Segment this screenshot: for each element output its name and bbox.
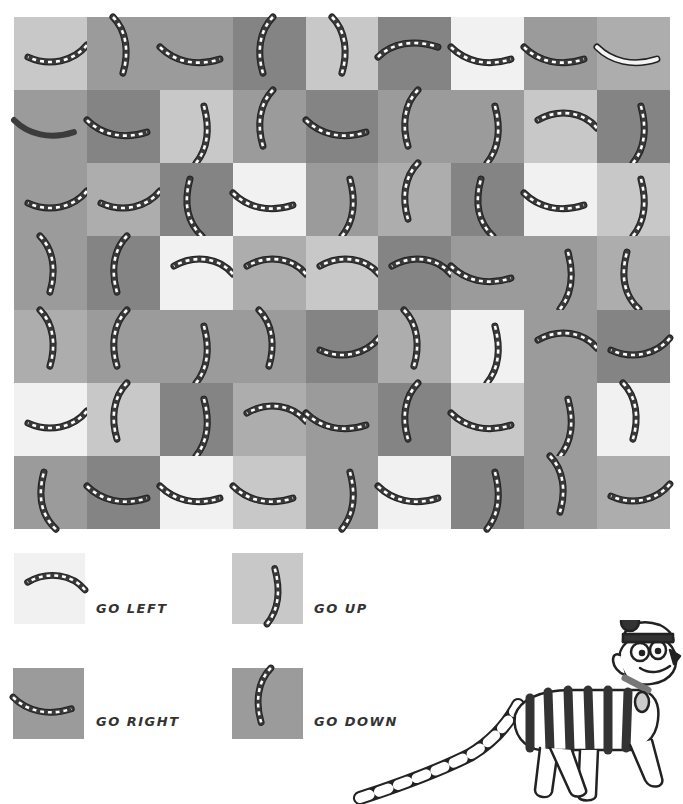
maze-tile-r0-c3 (233, 17, 306, 90)
path-arrow-go-down-icon (233, 17, 306, 90)
maze-tile-r2-c3 (233, 163, 306, 236)
maze-tile-r6-c5 (378, 456, 451, 529)
legend-tile-go-right (13, 668, 84, 739)
path-arrow-go-up-icon (597, 90, 670, 163)
path-arrow-go-up-icon (306, 163, 379, 236)
path-arrow-go-left-icon (14, 17, 87, 90)
maze-tile-r3-c3 (233, 236, 306, 309)
maze-tile-r5-c0 (14, 383, 87, 456)
maze-tile-r0-c7 (524, 17, 597, 90)
maze-tile-r4-c5 (378, 310, 451, 383)
path-arrow-go-down-icon (597, 383, 670, 456)
maze-tile-r5-c7 (524, 383, 597, 456)
path-arrow-go-down-icon (306, 17, 379, 90)
maze-tile-r0-c4 (306, 17, 379, 90)
path-arrow-go-right-icon (306, 90, 379, 163)
path-arrow-go-right-icon (160, 17, 233, 90)
path-arrow-go-right-icon (378, 456, 451, 529)
maze-tile-r3-c1 (87, 236, 160, 309)
path-arrow-go-left-icon (14, 163, 87, 236)
maze-tile-r5-c4 (306, 383, 379, 456)
path-arrow-go-down-icon (378, 163, 451, 236)
path-arrow-go-right-icon (597, 17, 670, 90)
maze-tile-r1-c5 (378, 90, 451, 163)
maze-tile-r3-c0 (14, 236, 87, 309)
maze-tile-r0-c6 (451, 17, 524, 90)
maze-tile-r1-c4 (306, 90, 379, 163)
path-arrow-go-right-icon (451, 383, 524, 456)
maze-tile-r5-c3 (233, 383, 306, 456)
maze-tile-r1-c1 (87, 90, 160, 163)
maze-grid (14, 17, 670, 529)
path-arrow-go-down-icon (378, 383, 451, 456)
maze-tile-r6-c0 (14, 456, 87, 529)
maze-tile-r2-c7 (524, 163, 597, 236)
path-arrow-go-left-icon (597, 456, 670, 529)
maze-tile-r1-c8 (597, 90, 670, 163)
maze-tile-r2-c1 (87, 163, 160, 236)
maze-tile-r1-c2 (160, 90, 233, 163)
path-arrow-go-left-icon (306, 310, 379, 383)
maze-tile-r6-c6 (451, 456, 524, 529)
maze-tile-r2-c4 (306, 163, 379, 236)
path-arrow-go-right-icon (160, 456, 233, 529)
maze-tile-r6-c4 (306, 456, 379, 529)
path-arrow-go-right-icon (13, 668, 84, 739)
path-arrow-go-up-icon (597, 163, 670, 236)
path-arrow-go-right-icon (524, 163, 597, 236)
maze-tile-r2-c5 (378, 163, 451, 236)
legend-tile-go-up (232, 553, 303, 624)
maze-tile-r5-c5 (378, 383, 451, 456)
path-arrow-go-left-icon (306, 236, 379, 309)
path-arrow-go-left-icon (597, 310, 670, 383)
path-arrow-go-down-icon (378, 90, 451, 163)
maze-tile-r4-c0 (14, 310, 87, 383)
maze-tile-r6-c3 (233, 456, 306, 529)
maze-tile-r0-c1 (87, 17, 160, 90)
maze-tile-r6-c1 (87, 456, 160, 529)
path-arrow-go-left-icon (524, 310, 597, 383)
maze-tile-r5-c1 (87, 383, 160, 456)
maze-tile-r4-c6 (451, 310, 524, 383)
path-arrow-go-down-icon (87, 383, 160, 456)
path-arrow-go-right-icon (451, 236, 524, 309)
legend-label-go-up: GO UP (314, 601, 368, 616)
path-arrow-go-up-icon (160, 383, 233, 456)
legend-label-go-left: GO LEFT (96, 601, 168, 616)
path-arrow-go-down-icon (14, 310, 87, 383)
maze-tile-r0-c0 (14, 17, 87, 90)
path-arrow-go-up-icon (14, 456, 87, 529)
path-arrow-go-up-icon (160, 163, 233, 236)
maze-tile-r1-c7 (524, 90, 597, 163)
path-arrow-go-right-icon (233, 456, 306, 529)
path-arrow-go-up-icon (306, 456, 379, 529)
maze-tile-r3-c6 (451, 236, 524, 309)
maze-tile-r4-c7 (524, 310, 597, 383)
maze-tile-r0-c2 (160, 17, 233, 90)
path-arrow-go-up-icon (597, 236, 670, 309)
maze-tile-r3-c5 (378, 236, 451, 309)
maze-tile-r3-c8 (597, 236, 670, 309)
maze-tile-r5-c8 (597, 383, 670, 456)
path-arrow-go-up-icon (232, 553, 303, 624)
path-arrow-go-down-icon (87, 17, 160, 90)
path-arrow-go-right-icon (306, 383, 379, 456)
path-arrow-go-right-icon (87, 90, 160, 163)
maze-tile-r0-c8 (597, 17, 670, 90)
path-arrow-go-left-icon (524, 90, 597, 163)
path-arrow-go-up-icon (160, 310, 233, 383)
path-arrow-go-left-icon (160, 236, 233, 309)
maze-tile-r4-c8 (597, 310, 670, 383)
maze-tile-r4-c4 (306, 310, 379, 383)
maze-tile-r5-c2 (160, 383, 233, 456)
maze-tile-r5-c6 (451, 383, 524, 456)
path-arrow-go-right-icon (524, 17, 597, 90)
path-arrow-go-down-icon (378, 310, 451, 383)
path-arrow-go-up-icon (451, 456, 524, 529)
legend-tile-go-down (232, 668, 303, 739)
maze-tile-r3-c4 (306, 236, 379, 309)
maze-tile-r2-c0 (14, 163, 87, 236)
path-arrow-go-right-icon (451, 17, 524, 90)
legend-tile-go-left (14, 553, 85, 624)
maze-tile-r6-c7 (524, 456, 597, 529)
